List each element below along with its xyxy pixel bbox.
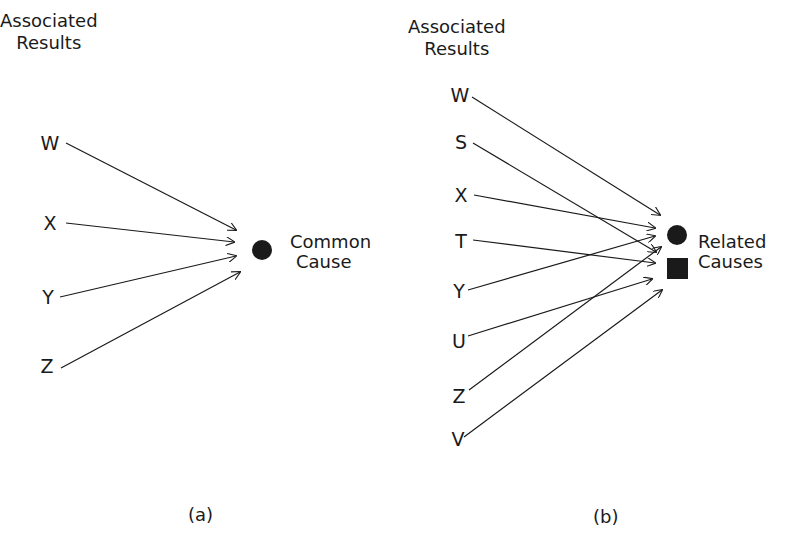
arrow-z-to-related-causes xyxy=(469,247,661,390)
arrow-v-to-related-causes xyxy=(464,290,662,437)
arrow-w-to-related-causes xyxy=(472,97,660,215)
related-cause-square-icon xyxy=(667,258,688,279)
common-cause-circle-icon xyxy=(252,240,272,260)
arrow-x-to-related-causes xyxy=(474,195,655,228)
panel-a-arrows xyxy=(60,143,240,368)
arrow-u-to-related-causes xyxy=(468,279,652,336)
arrow-w-to-common-cause xyxy=(66,143,236,230)
diagram-graphics xyxy=(0,0,788,539)
arrow-y-to-related-causes xyxy=(468,236,655,290)
arrow-x-to-common-cause xyxy=(66,223,234,242)
arrow-y-to-common-cause xyxy=(60,256,236,297)
arrow-z-to-common-cause xyxy=(61,272,240,368)
related-cause-circle-icon xyxy=(667,225,687,245)
arrow-s-to-related-causes xyxy=(473,143,656,252)
panel-b-arrows xyxy=(464,97,662,437)
